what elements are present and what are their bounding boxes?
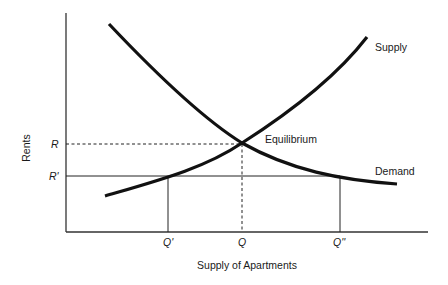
demand-label: Demand <box>375 165 415 177</box>
equilibrium-label: Equilibrium <box>265 133 317 145</box>
y-axis-title: Rents <box>20 134 32 161</box>
supply-label: Supply <box>375 41 408 53</box>
demand-curve <box>109 24 397 184</box>
x-axis-title: Supply of Apartments <box>197 259 297 271</box>
q-prime-tick-label: Q' <box>163 236 174 248</box>
r-prime-tick-label: R' <box>49 170 60 182</box>
q-tick-label: Q <box>238 236 246 248</box>
q-double-prime-tick-label: Q'' <box>333 236 346 248</box>
supply-demand-chart: Supply Demand Equilibrium R R' Q' Q Q'' … <box>0 0 448 285</box>
r-tick-label: R <box>51 138 59 150</box>
